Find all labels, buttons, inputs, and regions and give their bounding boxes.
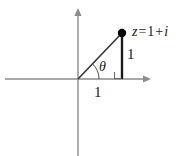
imaginary-axis-arrowhead <box>74 8 81 16</box>
point-z-plus: + <box>154 24 164 39</box>
point-z-label: z=1+i <box>132 25 168 39</box>
complex-plane-figure: z=1+i 1 1 θ <box>0 0 195 156</box>
angle-theta-label: θ <box>99 60 106 74</box>
vertical-leg-length-label: 1 <box>127 47 135 62</box>
point-z-imaginary-unit: i <box>164 24 168 39</box>
real-axis-arrowhead <box>143 75 151 82</box>
right-angle-marker <box>115 72 122 79</box>
point-z-marker <box>118 29 126 37</box>
horizontal-leg-length-label: 1 <box>94 85 102 100</box>
point-z-equals: = <box>137 24 147 39</box>
